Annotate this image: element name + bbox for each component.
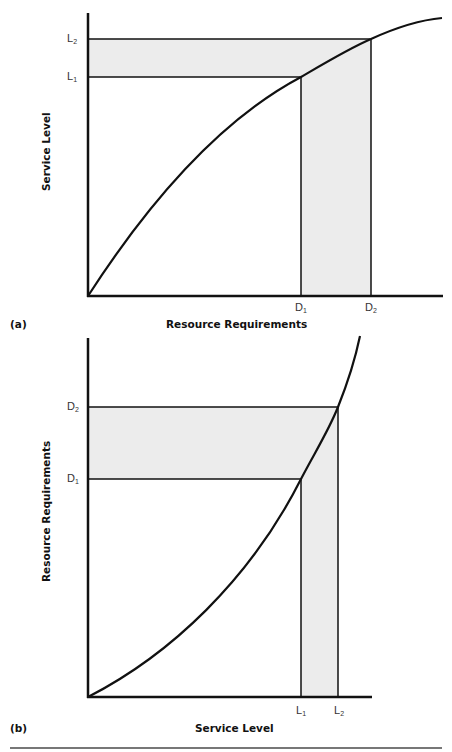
chart-panel-b: D2 D1 L1 L2 Resource Requirements Servic… xyxy=(0,320,452,740)
x-tick-l2: L2 xyxy=(334,705,344,717)
x-tick-l1: L1 xyxy=(296,705,306,717)
shade-band-horizontal xyxy=(89,407,338,479)
bottom-divider xyxy=(10,747,442,749)
y-tick-d2: D2 xyxy=(67,401,79,413)
x-axis-title-b: Service Level xyxy=(195,722,274,734)
panel-tag-b: (b) xyxy=(10,722,27,734)
y-axis-title-b: Resource Requirements xyxy=(40,441,52,582)
y-tick-d1: D1 xyxy=(67,473,79,485)
chart-b-plot xyxy=(0,0,452,420)
shade-band-vertical xyxy=(301,479,338,697)
